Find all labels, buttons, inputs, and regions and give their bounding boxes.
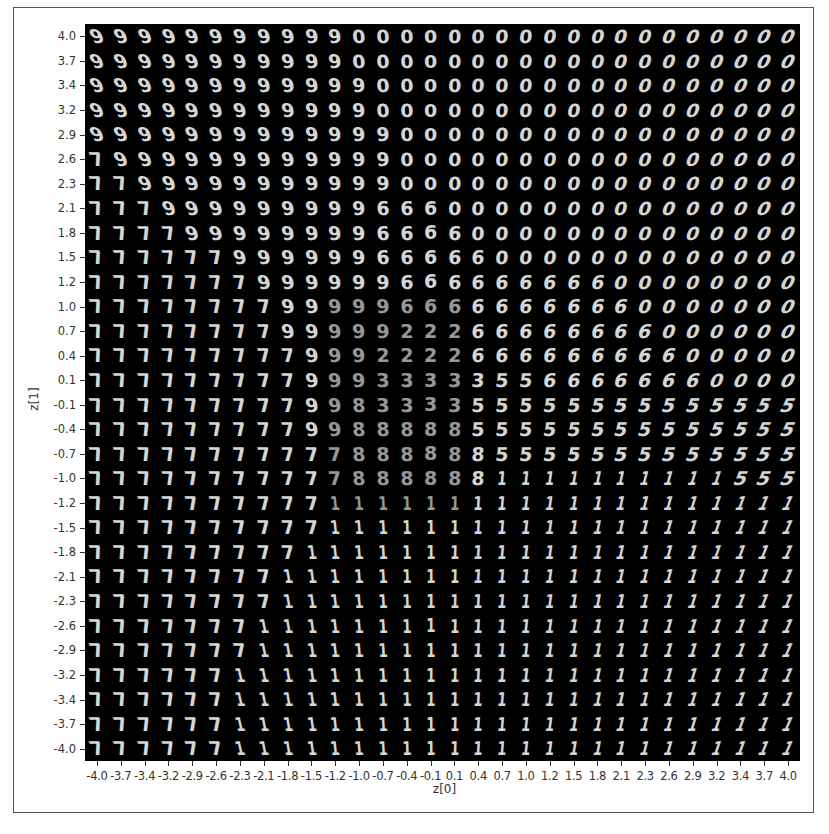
digit-cell: 0 xyxy=(513,74,539,97)
digit-cell: 9 xyxy=(298,270,325,295)
digit-cell: 1 xyxy=(704,614,729,639)
digit-cell: 1 xyxy=(610,614,632,639)
digit-cell: 0 xyxy=(466,74,491,97)
digit-cell: 0 xyxy=(419,98,443,121)
digit-cell: 1 xyxy=(374,663,392,688)
digit-cell: 9 xyxy=(322,319,349,344)
digit-cell: 1 xyxy=(657,515,681,540)
digit-cell: 7 xyxy=(201,663,231,688)
digit-cell: 1 xyxy=(774,687,800,712)
digit-cell: 6 xyxy=(466,319,491,344)
digit-cell: 1 xyxy=(516,614,535,639)
digit-cell: 0 xyxy=(370,49,395,72)
digit-cell: 1 xyxy=(774,638,800,663)
digit-cell: 9 xyxy=(322,49,349,74)
digit-cell: 1 xyxy=(493,589,512,614)
digit-cell: 6 xyxy=(536,368,563,393)
digit-cell: 6 xyxy=(419,221,443,246)
digit-cell: 1 xyxy=(610,466,632,491)
digit-cell: 1 xyxy=(350,638,369,663)
digit-cell: 1 xyxy=(774,712,800,737)
digit-cell: 9 xyxy=(274,24,302,49)
digit-cell: 0 xyxy=(536,49,563,72)
digit-cell: 1 xyxy=(350,515,369,540)
digit-cell: 9 xyxy=(298,171,325,196)
digit-cell: 1 xyxy=(350,663,369,688)
digit-cell: 0 xyxy=(489,246,515,269)
digit-cell: 6 xyxy=(419,270,443,295)
digit-cell: 8 xyxy=(394,466,419,491)
digit-cell: 6 xyxy=(513,343,540,368)
digit-cell: 1 xyxy=(657,712,681,737)
digit-cell: 0 xyxy=(346,49,372,72)
digit-cell: 1 xyxy=(253,687,275,712)
digit-cell: 1 xyxy=(374,736,392,761)
digit-cell: 9 xyxy=(298,98,325,123)
digit-cell: 1 xyxy=(398,638,415,663)
digit-cell: 7 xyxy=(274,540,302,565)
digit-cell: 3 xyxy=(394,393,419,418)
digit-cell: 3 xyxy=(370,393,395,418)
digit-cell: 9 xyxy=(298,73,325,98)
digit-cell: 0 xyxy=(536,25,563,48)
digit-cell: 9 xyxy=(322,368,349,393)
digit-cell: 2 xyxy=(442,343,467,368)
digit-cell: 9 xyxy=(346,368,372,393)
digit-cell: 1 xyxy=(540,589,560,614)
digit-cell: 1 xyxy=(398,564,415,589)
digit-cell: 5 xyxy=(513,393,540,418)
digit-cell: 1 xyxy=(540,712,560,737)
digit-cell: 9 xyxy=(322,147,349,172)
digit-cell: 1 xyxy=(277,638,298,663)
digit-cell: 1 xyxy=(681,614,705,639)
digit-cell: 1 xyxy=(751,638,778,663)
digit-cell: 8 xyxy=(370,466,395,491)
digit-cell: 0 xyxy=(513,172,539,195)
digit-cell: 1 xyxy=(657,736,681,761)
digit-cell: 9 xyxy=(346,343,372,368)
digit-cell: 6 xyxy=(513,294,540,319)
digit-cell: 1 xyxy=(469,540,487,565)
digit-cell: 9 xyxy=(346,196,372,221)
digit-cell: 1 xyxy=(681,638,705,663)
digit-cell: 0 xyxy=(442,74,466,97)
digit-cell: 1 xyxy=(229,687,251,712)
digit-cell: 1 xyxy=(326,491,345,516)
x-axis-label: z[0] xyxy=(0,782,829,796)
digit-cell: 1 xyxy=(751,540,778,565)
digit-cell: 7 xyxy=(201,687,231,712)
digit-cell: 1 xyxy=(277,687,298,712)
digit-cell: 1 xyxy=(727,589,753,614)
digit-cell: 1 xyxy=(704,712,729,737)
digit-cell: 5 xyxy=(466,393,491,418)
digit-cell: 1 xyxy=(751,614,778,639)
digit-cell: 1 xyxy=(563,736,584,761)
digit-cell: 9 xyxy=(274,122,302,147)
digit-cell: 1 xyxy=(516,638,535,663)
digit-cell: 0 xyxy=(466,49,491,72)
digit-cell: 1 xyxy=(422,687,439,712)
digit-cell: 9 xyxy=(274,270,302,295)
digit-cell: 0 xyxy=(419,123,443,146)
digit-cell: 1 xyxy=(422,663,439,688)
digit-cell: 1 xyxy=(469,589,487,614)
digit-cell: 0 xyxy=(513,147,539,170)
digit-cell: 1 xyxy=(751,515,778,540)
digit-cell: 9 xyxy=(322,221,349,246)
digit-cell: 1 xyxy=(253,736,275,761)
digit-cell: 9 xyxy=(274,73,302,98)
digit-cell: 0 xyxy=(466,197,491,220)
digit-cell: 0 xyxy=(489,74,515,97)
digit-cell: 1 xyxy=(587,712,609,737)
digit-cell: 9 xyxy=(274,294,302,319)
digit-cell: 1 xyxy=(727,663,753,688)
digit-cell: 1 xyxy=(704,491,729,516)
digit-cell: 1 xyxy=(563,540,584,565)
digit-cell: 9 xyxy=(274,49,302,74)
digit-cell: 7 xyxy=(274,491,302,516)
digit-cell: 1 xyxy=(469,687,487,712)
digit-cell: 1 xyxy=(540,614,560,639)
digit-cell: 1 xyxy=(587,589,609,614)
digit-cell: 0 xyxy=(489,197,515,220)
digit-cell: 9 xyxy=(274,147,302,172)
